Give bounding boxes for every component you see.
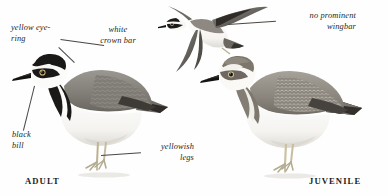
annotation-white-crown-bar: white crown bar [82,25,154,46]
illustration-plate: yellow eye- ring white crown bar no prom… [0,0,388,196]
annotation-no-prominent-wingbar: no prominent wingbar [274,11,356,32]
leader-line-black-bill [23,86,35,131]
annotation-black-bill: black bill [12,130,62,151]
figure-plover-in-flight [158,6,268,72]
leader-line-yellow-eye-ring [59,47,75,63]
leader-line-no-wingbar [228,21,276,25]
annotation-yellow-eye-ring: yellow eye- ring [11,23,83,44]
stage-label-juvenile: JUVENILE [309,176,361,186]
figure-juvenile-plover [200,56,362,179]
stage-label-adult: ADULT [25,176,60,186]
annotation-yellowish-legs: yellowish legs [132,142,194,163]
